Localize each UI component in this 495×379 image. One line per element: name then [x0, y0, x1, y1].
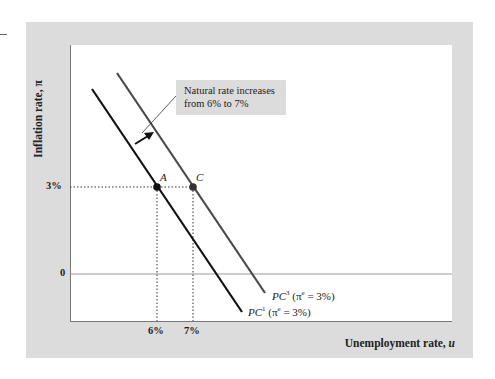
x-axis-label-text: Unemployment rate, [345, 337, 449, 349]
point-a-label: A [160, 171, 167, 183]
pc1-expect-close: = 3%) [281, 306, 311, 318]
point-c-label: C [196, 171, 203, 183]
x-tick-7pct: 7% [184, 325, 200, 336]
callout-line-1: Natural rate increases [184, 85, 286, 98]
chart-canvas [0, 0, 495, 379]
pc1-expect-open: (π [266, 306, 278, 318]
pc3-expect-close: = 3%) [305, 290, 335, 302]
pc1-name: PC [248, 306, 262, 318]
x-axis-variable: u [449, 337, 455, 349]
x-axis-label: Unemployment rate, u [345, 337, 455, 349]
shift-arrow-icon [135, 132, 154, 144]
point-c-marker [189, 183, 197, 191]
pc3-expect-open: (π [290, 290, 302, 302]
callout-leader-line [142, 96, 176, 133]
pc1-label: PC1 (πe = 3%) [248, 305, 311, 318]
pc3-name: PC [272, 290, 286, 302]
point-a-marker [153, 183, 161, 191]
pc1-curve [92, 89, 242, 312]
y-tick-3pct: 3% [46, 180, 62, 191]
callout-line-2: from 6% to 7% [184, 98, 286, 111]
natural-rate-callout: Natural rate increases from 6% to 7% [176, 80, 286, 115]
y-tick-0: 0 [60, 267, 65, 278]
x-tick-6pct: 6% [148, 325, 164, 336]
pc3-label: PC3 (πe = 3%) [272, 289, 335, 302]
